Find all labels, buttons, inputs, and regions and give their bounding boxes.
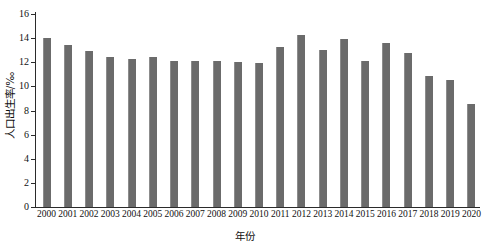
bar [276, 47, 284, 207]
bar [213, 61, 221, 207]
bar [234, 62, 242, 207]
bar [425, 76, 433, 207]
y-tick-label: 12 [2, 57, 29, 67]
x-axis-title: 年份 [0, 228, 489, 243]
bar [319, 50, 327, 207]
y-tick-label: 2 [2, 178, 29, 188]
bar [149, 57, 157, 207]
y-tick-label: 4 [2, 154, 29, 164]
bar [191, 61, 199, 207]
bar [467, 104, 475, 207]
bar [404, 53, 412, 207]
y-tick-label: 10 [2, 81, 29, 91]
bar [128, 59, 136, 207]
y-tick-label: 6 [2, 130, 29, 140]
bar-chart: 人口出生率/‰ 0246810121416 200020012002200320… [0, 0, 489, 252]
bar [85, 51, 93, 207]
bar [361, 61, 369, 207]
bar [382, 43, 390, 207]
y-tick-label: 0 [2, 202, 29, 212]
bar [64, 45, 72, 207]
x-axis-line [36, 207, 480, 208]
bar [43, 38, 51, 207]
plot-area [36, 14, 480, 207]
bar [446, 80, 454, 207]
y-tick-label: 14 [2, 33, 29, 43]
bar [170, 61, 178, 207]
y-tick-label: 16 [2, 9, 29, 19]
y-tick-label: 8 [2, 106, 29, 116]
y-tick-mark [31, 207, 36, 208]
bar [255, 63, 263, 207]
bar [297, 35, 305, 207]
bar [340, 39, 348, 207]
x-tick-label: 2020 [458, 210, 484, 220]
bar [106, 57, 114, 207]
